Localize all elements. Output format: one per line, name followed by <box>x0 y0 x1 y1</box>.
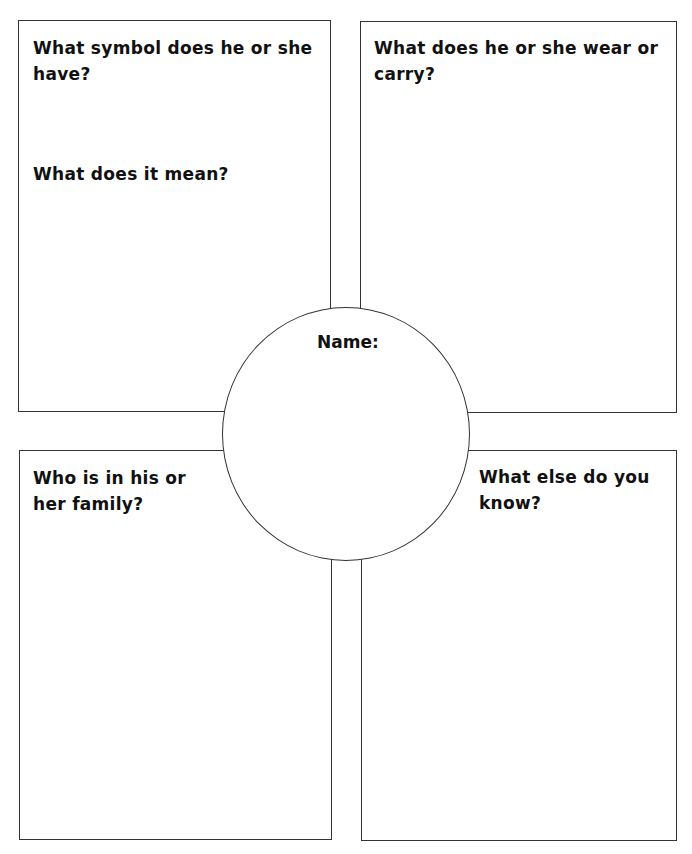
family-question: Who is in his or her family? <box>33 465 203 517</box>
symbol-answer-area[interactable] <box>19 81 330 151</box>
else-know-question: What else do you know? <box>479 464 664 516</box>
family-answer-area[interactable] <box>20 521 331 839</box>
else-know-answer-area[interactable] <box>362 521 676 840</box>
meaning-question: What does it mean? <box>33 161 318 187</box>
name-label: Name: <box>317 331 379 353</box>
symbol-question: What symbol does he or she have? <box>33 35 318 87</box>
wear-carry-question: What does he or she wear or carry? <box>374 35 669 87</box>
